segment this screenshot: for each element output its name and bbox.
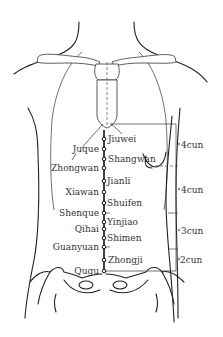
label-shimen: Shimen xyxy=(107,233,142,243)
pelvis xyxy=(30,268,184,313)
label-xiawan: Xiawan xyxy=(65,187,99,197)
label-jiuwei: Jiuwei xyxy=(107,134,136,144)
label-zhongji: Zhongji xyxy=(108,255,143,265)
labels-right: Jiuwei Shangwan Jianli Shuifen Yinjiao S… xyxy=(106,134,156,265)
point-jianli xyxy=(102,179,106,183)
measurement-4cun-lower: 4cun xyxy=(181,185,204,195)
label-shangwan: Shangwan xyxy=(108,154,156,164)
point-juque xyxy=(102,147,106,151)
point-shangwan xyxy=(102,157,106,161)
point-xiawan xyxy=(102,190,106,194)
point-zhongwan xyxy=(102,166,106,170)
label-shenque: Shenque xyxy=(59,208,99,218)
acupoint-diagram: Jiuwei Shangwan Jianli Shuifen Yinjiao S… xyxy=(0,0,223,337)
label-zhongwan: Zhongwan xyxy=(51,163,99,173)
label-yinjiao: Yinjiao xyxy=(106,217,138,227)
label-guanyuan: Guanyuan xyxy=(53,242,99,252)
measurement-4cun-upper: 4cun xyxy=(181,140,204,150)
labels-left: Juque Zhongwan Xiawan Shenque Qihai Guan… xyxy=(51,144,99,276)
point-shuifen xyxy=(102,201,106,205)
point-guanyuan xyxy=(102,245,106,249)
point-shenque xyxy=(102,211,106,215)
point-yinjiao xyxy=(102,220,106,224)
point-zhongji xyxy=(102,258,106,262)
point-qugu xyxy=(102,269,106,273)
measurement-2cun: 2cun xyxy=(180,255,203,265)
label-jianli: Jianli xyxy=(106,176,131,186)
label-qihai: Qihai xyxy=(75,224,99,234)
point-shimen xyxy=(102,236,106,240)
label-shuifen: Shuifen xyxy=(107,198,142,208)
label-juque: Juque xyxy=(72,144,99,154)
point-qihai xyxy=(102,227,106,231)
sternum xyxy=(95,62,120,128)
point-jiuwei xyxy=(102,137,106,141)
measurement-3cun: 3cun xyxy=(181,226,204,236)
